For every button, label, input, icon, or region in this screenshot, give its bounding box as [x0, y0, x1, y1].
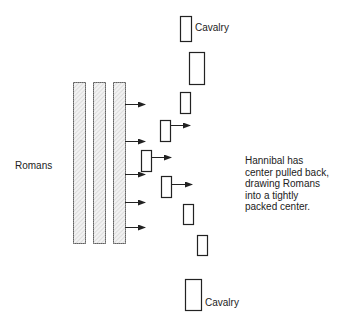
- carthaginian-unit-2: [190, 53, 205, 85]
- carthaginian-arrows: [151, 126, 192, 185]
- carthaginian-unit-1: [181, 17, 192, 42]
- carthaginian-unit-9: [186, 280, 202, 311]
- roman-line-1: [74, 83, 86, 244]
- roman-lines: [74, 83, 126, 244]
- carthaginian-units: [142, 17, 208, 311]
- cavalry-bottom-label: Cavalry: [205, 297, 239, 309]
- carthaginian-unit-8: [198, 236, 208, 256]
- annotation-note: Hannibal has center pulled back, drawing…: [245, 155, 329, 213]
- romans-label: Romans: [15, 160, 52, 172]
- carthaginian-unit-7: [184, 205, 194, 225]
- carthaginian-unit-4: [161, 121, 171, 142]
- roman-line-2: [94, 83, 106, 244]
- carthaginian-unit-3: [181, 93, 191, 114]
- carthaginian-unit-6: [162, 177, 172, 198]
- carthaginian-unit-5: [142, 151, 152, 172]
- roman-line-3: [114, 83, 126, 244]
- cavalry-top-label: Cavalry: [195, 22, 229, 34]
